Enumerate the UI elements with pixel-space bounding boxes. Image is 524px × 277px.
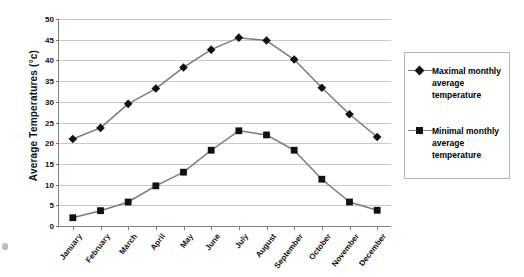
x-tick-mark — [211, 226, 212, 230]
x-tick-mark — [294, 226, 295, 230]
y-tick-label: 35 — [45, 77, 54, 86]
x-tick-mark — [156, 226, 157, 230]
data-point — [69, 214, 76, 221]
data-point — [125, 199, 132, 206]
legend-label-maximal: Maximal monthly average temperature — [432, 65, 508, 101]
x-tick-mark — [128, 226, 129, 230]
x-tick-label: August — [254, 232, 278, 259]
x-tick-mark — [73, 226, 74, 230]
x-tick-mark — [322, 226, 323, 230]
data-point — [207, 45, 216, 54]
x-tick-mark — [350, 226, 351, 230]
data-point — [69, 135, 78, 144]
x-tick-mark — [101, 226, 102, 230]
data-point — [180, 169, 187, 176]
legend-entry-maximal: Maximal monthly average temperature — [408, 65, 508, 101]
x-tick-label: January — [58, 232, 84, 262]
y-tick-label: 40 — [45, 56, 54, 65]
x-tick-label: March — [118, 232, 140, 256]
scan-artifact — [2, 243, 8, 250]
x-tick-label: November — [329, 232, 360, 268]
data-point — [374, 207, 381, 214]
y-tick-label: 50 — [45, 15, 54, 24]
data-point — [152, 182, 159, 189]
data-point — [97, 207, 104, 214]
series-layer — [59, 19, 391, 226]
x-tick-label: April — [149, 232, 167, 252]
x-tick-mark — [377, 226, 378, 230]
x-tick-mark — [239, 226, 240, 230]
data-point — [262, 36, 271, 45]
legend-marker-diamond-icon — [408, 65, 432, 76]
y-tick-label: 10 — [45, 180, 54, 189]
x-tick-label: February — [83, 232, 111, 265]
y-tick-mark — [56, 226, 59, 227]
x-tick-label: December — [357, 232, 388, 268]
y-axis-title: Average Temperatures (°c) — [28, 21, 39, 211]
y-tick-label: 0 — [50, 222, 54, 231]
data-point — [208, 147, 215, 154]
x-tick-mark — [184, 226, 185, 230]
data-point — [291, 147, 298, 154]
legend-entry-minimal: Minimal monthly average temperature — [408, 125, 508, 161]
legend-marker-square-icon — [408, 125, 432, 136]
y-tick-label: 30 — [45, 97, 54, 106]
temperature-line-chart: Average Temperatures (°c) 05101520253035… — [0, 0, 524, 277]
legend-label-minimal: Minimal monthly average temperature — [432, 125, 508, 161]
data-point — [263, 132, 270, 139]
series-line-minimal — [73, 131, 377, 218]
x-tick-label: October — [307, 232, 333, 262]
y-tick-label: 15 — [45, 159, 54, 168]
y-tick-label: 5 — [50, 201, 54, 210]
y-tick-label: 20 — [45, 139, 54, 148]
gridline — [59, 226, 391, 227]
data-point — [318, 176, 325, 183]
data-point — [346, 199, 353, 206]
data-point — [235, 127, 242, 134]
y-tick-label: 45 — [45, 35, 54, 44]
y-tick-label: 25 — [45, 118, 54, 127]
x-tick-mark — [267, 226, 268, 230]
x-tick-label: May — [178, 232, 195, 250]
data-point — [235, 33, 244, 42]
x-tick-label: July — [233, 232, 250, 250]
x-tick-label: June — [204, 232, 223, 252]
series-line-maximal — [73, 38, 377, 139]
plot-area: 05101520253035404550 JanuaryFebruaryMarc… — [58, 19, 391, 227]
chart-legend: Maximal monthly average temperature Mini… — [404, 52, 510, 179]
